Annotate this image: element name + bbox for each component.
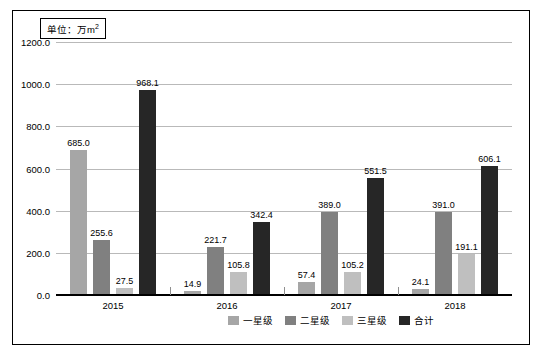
bar: 255.6 [93,240,110,294]
unit-label-text: 单位：万m [47,24,95,35]
bar-value-label: 191.1 [455,242,478,252]
legend-label: 一星级 [243,313,273,327]
bar: 389.0 [321,212,338,294]
legend-label: 三星级 [357,313,387,327]
bar: 27.5 [116,288,133,294]
bar-value-label: 255.6 [90,228,113,238]
category-separator [398,287,399,295]
y-axis-tick-label: 0.0 [37,290,50,301]
legend-label: 合计 [414,313,434,327]
legend-swatch [228,316,239,325]
gridline [56,169,512,170]
bar-value-label: 685.0 [67,138,90,148]
legend-item[interactable]: 二星级 [285,313,330,327]
x-axis-tick-label: 2018 [444,300,465,311]
bar-value-label: 105.8 [227,260,250,270]
chart-legend: 一星级二星级三星级合计 [228,313,434,327]
x-axis-tick-label: 2015 [102,300,123,311]
category-separator [284,287,285,295]
bar-value-label: 24.1 [412,277,430,287]
bar-value-label: 389.0 [318,200,341,210]
bar-value-label: 57.4 [298,270,316,280]
bar: 57.4 [298,282,315,294]
bar-value-label: 27.5 [116,276,134,286]
bar: 191.1 [458,254,475,294]
legend-item[interactable]: 三星级 [342,313,387,327]
y-axis-tick-label: 600.0 [26,163,50,174]
bar: 24.1 [412,289,429,294]
y-axis-tick-label: 400.0 [26,205,50,216]
gridline [56,84,512,85]
bar: 14.9 [184,291,201,294]
bar: 685.0 [70,150,87,294]
bar: 551.5 [367,178,384,294]
bar: 342.4 [253,222,270,294]
plot-area: 0.0200.0400.0600.0800.01000.01200.0685.0… [56,42,512,295]
x-axis-tick-label: 2016 [216,300,237,311]
bar: 968.1 [139,90,156,294]
bar-value-label: 391.0 [432,200,455,210]
bar: 391.0 [435,212,452,294]
gridline [56,42,512,43]
bar-value-label: 342.4 [250,210,273,220]
legend-label: 二星级 [300,313,330,327]
bar: 105.8 [230,272,247,294]
legend-swatch [342,316,353,325]
unit-superscript: 2 [95,23,99,30]
bar-value-label: 105.2 [341,260,364,270]
legend-swatch [285,316,296,325]
bar-value-label: 14.9 [184,279,202,289]
gridline [56,295,512,296]
category-separator [170,287,171,295]
legend-swatch [399,316,410,325]
legend-item[interactable]: 合计 [399,313,434,327]
bar-value-label: 221.7 [204,235,227,245]
x-axis-tick-label: 2017 [330,300,351,311]
bar-value-label: 968.1 [136,78,159,88]
bar: 221.7 [207,247,224,294]
y-axis-tick-label: 800.0 [26,121,50,132]
y-axis-tick-label: 200.0 [26,247,50,258]
bar-value-label: 551.5 [364,166,387,176]
bar: 105.2 [344,272,361,294]
y-axis-tick-label: 1200.0 [21,37,50,48]
legend-item[interactable]: 一星级 [228,313,273,327]
bar-value-label: 606.1 [478,154,501,164]
gridline [56,126,512,127]
chart-container: 单位：万m2 0.0200.0400.0600.0800.01000.01200… [0,0,544,357]
y-axis-tick-label: 1000.0 [21,79,50,90]
bar: 606.1 [481,166,498,294]
